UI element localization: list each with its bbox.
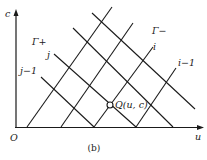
gamma-plus-label: Γ+ <box>31 36 47 47</box>
j-label: j <box>45 49 50 60</box>
i-minus-1-label: i−1 <box>178 57 195 68</box>
gamma-minus-label: Γ− <box>151 25 167 36</box>
origin-label: O <box>10 132 18 143</box>
falling-line-j-minus-1 <box>41 77 94 127</box>
c-axis-label: c <box>5 8 11 19</box>
figure-caption: (b) <box>88 143 101 153</box>
rising-line-1 <box>27 7 112 127</box>
q-point-label: Q(u, c) <box>115 99 148 110</box>
i-label: i <box>153 41 156 52</box>
falling-line-3 <box>73 28 173 127</box>
c-axis-arrow-icon <box>14 9 19 16</box>
rising-line-i-minus-1 <box>136 68 176 127</box>
q-point-marker <box>107 102 113 108</box>
falling-line-j <box>54 54 136 127</box>
u-axis-label: u <box>195 131 201 142</box>
rising-line-2 <box>61 23 133 127</box>
characteristics-diagram: c u O Γ+ Γ− j j−1 i i−1 Q(u, c) (b) <box>0 0 207 160</box>
j-minus-1-label: j−1 <box>18 65 37 76</box>
u-axis-arrow-icon <box>197 125 204 130</box>
